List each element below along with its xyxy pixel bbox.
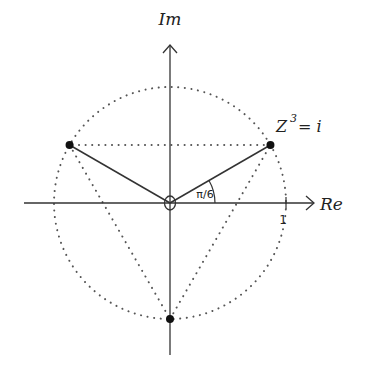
root-right-point xyxy=(266,141,274,149)
angle-label: π/6 xyxy=(196,188,213,201)
equation-exponent: 3 xyxy=(290,112,297,125)
triangle-side xyxy=(170,145,270,319)
root-right-ray xyxy=(170,145,270,203)
root-bottom-point xyxy=(166,315,174,323)
imaginary-axis-label: Im xyxy=(158,9,182,29)
unit-tick-label: 1 xyxy=(279,213,287,227)
triangle-side xyxy=(70,145,170,319)
real-axis-label: Re xyxy=(319,194,343,214)
equation-base: Z xyxy=(275,117,288,136)
equation-rest: = i xyxy=(298,117,322,136)
diagram-canvas: Im Re 1 π/6 Z 3 = i xyxy=(0,0,369,378)
root-left-ray xyxy=(70,145,170,203)
root-left-point xyxy=(66,141,74,149)
equation-label: Z 3 = i xyxy=(275,112,322,136)
